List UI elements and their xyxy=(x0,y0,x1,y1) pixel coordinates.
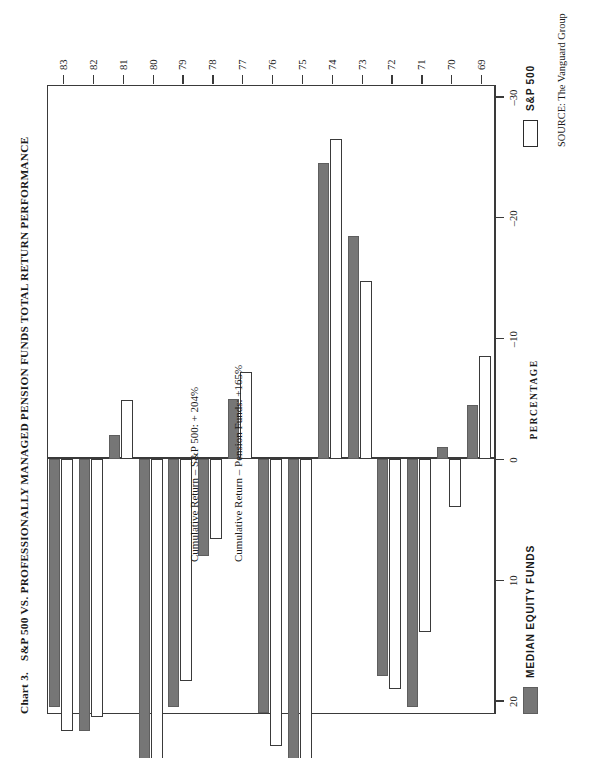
year-label-80: 80 xyxy=(147,46,158,70)
year-label-72: 72 xyxy=(386,46,397,70)
percentage-label-neg10: –10 xyxy=(508,331,519,347)
year-tick-74 xyxy=(332,75,333,84)
percentage-tick-20 xyxy=(495,700,504,701)
bar-sp-82 xyxy=(91,459,103,718)
bar-sp-80 xyxy=(151,459,163,758)
year-label-76: 76 xyxy=(267,46,278,70)
source-note: SOURCE: The Vanguard Group xyxy=(556,13,567,147)
chart-figure: Chart 3.S&P 500 VS. PROFESSIONALLY MANAG… xyxy=(0,0,601,758)
legend-swatch-sp500 xyxy=(523,120,538,147)
bar-sp-74 xyxy=(330,139,342,459)
bar-sp-76 xyxy=(270,459,282,747)
bar-sp-72 xyxy=(389,459,401,689)
year-label-78: 78 xyxy=(207,46,218,70)
bar-group-83 xyxy=(44,86,82,713)
plot-area: 697071727374757677787980818283 YEARS xyxy=(47,85,495,714)
year-tick-78 xyxy=(212,75,213,84)
legend-swatch-median-equity-funds xyxy=(523,687,538,714)
bar-sp-73 xyxy=(360,281,372,459)
percentage-label-10: 10 xyxy=(508,576,519,587)
percentage-tick-neg10 xyxy=(495,338,504,339)
percentage-label-20: 20 xyxy=(508,696,519,707)
year-tick-73 xyxy=(362,75,363,84)
year-tick-75 xyxy=(302,75,303,84)
percentage-tick-neg20 xyxy=(495,217,504,218)
percentage-tick-neg30 xyxy=(495,96,504,97)
year-label-82: 82 xyxy=(87,46,98,70)
legend-label-sp500: S&P 500 xyxy=(525,65,536,111)
year-tick-70 xyxy=(451,75,452,84)
year-tick-71 xyxy=(421,75,422,84)
bar-sp-75 xyxy=(300,459,312,758)
bar-sp-81 xyxy=(121,400,133,459)
bar-sp-69 xyxy=(479,356,491,459)
legend-sp500: S&P 500 xyxy=(523,65,538,147)
bar-sp-83 xyxy=(61,459,73,731)
chart-number: Chart 3. xyxy=(18,672,30,714)
percentage-axis-title-wrap: PERCENTAGE xyxy=(0,85,1,714)
year-label-74: 74 xyxy=(326,46,337,70)
annotation-pension-cumulative: Cumulative Return – Pension Funds: +165% xyxy=(232,365,244,562)
year-tick-82 xyxy=(93,75,94,84)
year-label-73: 73 xyxy=(356,46,367,70)
year-label-77: 77 xyxy=(237,46,248,70)
year-tick-77 xyxy=(242,75,243,84)
legend-label-median-equity-funds: MEDIAN EQUITY FUNDS xyxy=(525,545,536,678)
year-tick-72 xyxy=(391,75,392,84)
bar-sp-70 xyxy=(449,459,461,507)
percentage-label-neg20: –20 xyxy=(508,210,519,226)
year-label-79: 79 xyxy=(177,46,188,70)
percentage-label-neg30: –30 xyxy=(508,90,519,106)
year-label-83: 83 xyxy=(57,46,68,70)
year-label-71: 71 xyxy=(416,46,427,70)
year-tick-80 xyxy=(153,75,154,84)
year-tick-69 xyxy=(481,75,482,84)
year-tick-76 xyxy=(272,75,273,84)
year-tick-83 xyxy=(63,75,64,84)
annotation-sp500-cumulative: Cumulative Return – S&P 500: + 204% xyxy=(188,387,200,562)
year-label-81: 81 xyxy=(117,46,128,70)
year-tick-79 xyxy=(182,75,183,84)
percentage-axis-ticks: 403020100–10–20–30 xyxy=(495,85,496,714)
percentage-tick-0 xyxy=(495,459,504,460)
bar-fund-83 xyxy=(49,459,60,707)
bar-sp-71 xyxy=(419,459,431,632)
percentage-tick-10 xyxy=(495,580,504,581)
page-title: Chart 3.S&P 500 VS. PROFESSIONALLY MANAG… xyxy=(18,137,30,714)
year-label-69: 69 xyxy=(476,46,487,70)
percentage-label-0: 0 xyxy=(508,457,519,462)
legend-median-equity-funds: MEDIAN EQUITY FUNDS xyxy=(523,545,538,714)
bar-sp-78 xyxy=(210,459,222,539)
chart-title-text: S&P 500 VS. PROFESSIONALLY MANAGED PENSI… xyxy=(18,137,30,661)
year-tick-81 xyxy=(123,75,124,84)
year-label-70: 70 xyxy=(446,46,457,70)
year-label-75: 75 xyxy=(296,46,307,70)
